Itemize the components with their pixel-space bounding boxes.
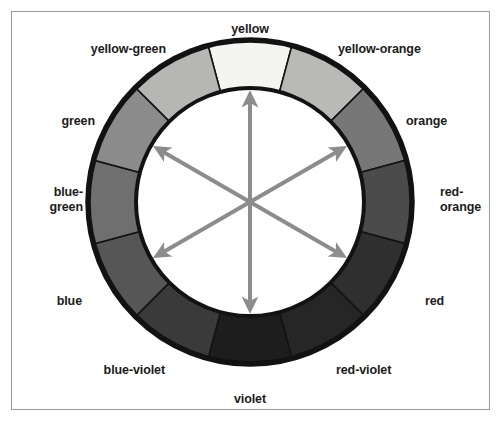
wheel-label-green: green — [61, 114, 95, 129]
color-wheel-figure: yellowyellow-orangeorangered- orangeredr… — [0, 0, 502, 422]
wheel-label-blue-green: blue- green — [49, 185, 83, 215]
wheel-label-violet: violet — [234, 392, 266, 407]
complement-arrows — [160, 98, 340, 306]
wheel-segment-blue-green[interactable] — [88, 160, 140, 244]
wheel-label-blue: blue — [57, 294, 82, 309]
wheel-label-yellow-orange: yellow-orange — [338, 42, 421, 57]
wheel-label-orange: orange — [406, 114, 447, 129]
wheel-label-red-orange: red- orange — [440, 185, 481, 215]
wheel-label-yellow: yellow — [231, 22, 269, 37]
wheel-label-blue-violet: blue-violet — [104, 363, 165, 378]
wheel-segment-violet[interactable] — [208, 312, 292, 364]
wheel-segment-yellow[interactable] — [208, 40, 292, 92]
wheel-label-red: red — [425, 294, 444, 309]
wheel-label-yellow-green: yellow-green — [91, 42, 166, 57]
wheel-label-red-violet: red-violet — [336, 363, 391, 378]
wheel-segment-red-orange[interactable] — [360, 160, 412, 244]
